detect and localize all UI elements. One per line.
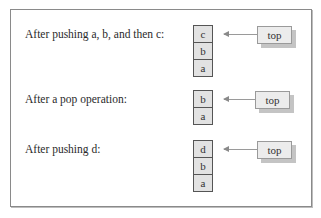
stack-after-push-abc: c b a (193, 25, 213, 77)
stack-cell-top: b (193, 90, 213, 108)
caption-push-d: After pushing d: (25, 142, 100, 156)
top-pointer-box: top (257, 141, 292, 159)
caption-push-abc: After pushing a, b, and then c: (25, 27, 164, 41)
stack-after-push-d: d b a (193, 140, 213, 192)
stack-cell: b (193, 157, 213, 175)
stack-cell: b (193, 42, 213, 60)
stack-cell-top: d (193, 140, 213, 158)
arrow-left-icon (224, 99, 257, 100)
stack-cell-bottom: a (193, 59, 213, 77)
arrow-left-icon (224, 149, 257, 150)
caption-pop: After a pop operation: (25, 92, 127, 106)
stack-cell-top: c (193, 25, 213, 43)
stack-cell-bottom: a (193, 174, 213, 192)
top-pointer-box: top (255, 91, 290, 109)
arrow-left-icon (224, 34, 257, 35)
stack-cell-bottom: a (193, 107, 213, 125)
stack-after-pop: b a (193, 90, 213, 125)
top-pointer-box: top (257, 26, 292, 44)
